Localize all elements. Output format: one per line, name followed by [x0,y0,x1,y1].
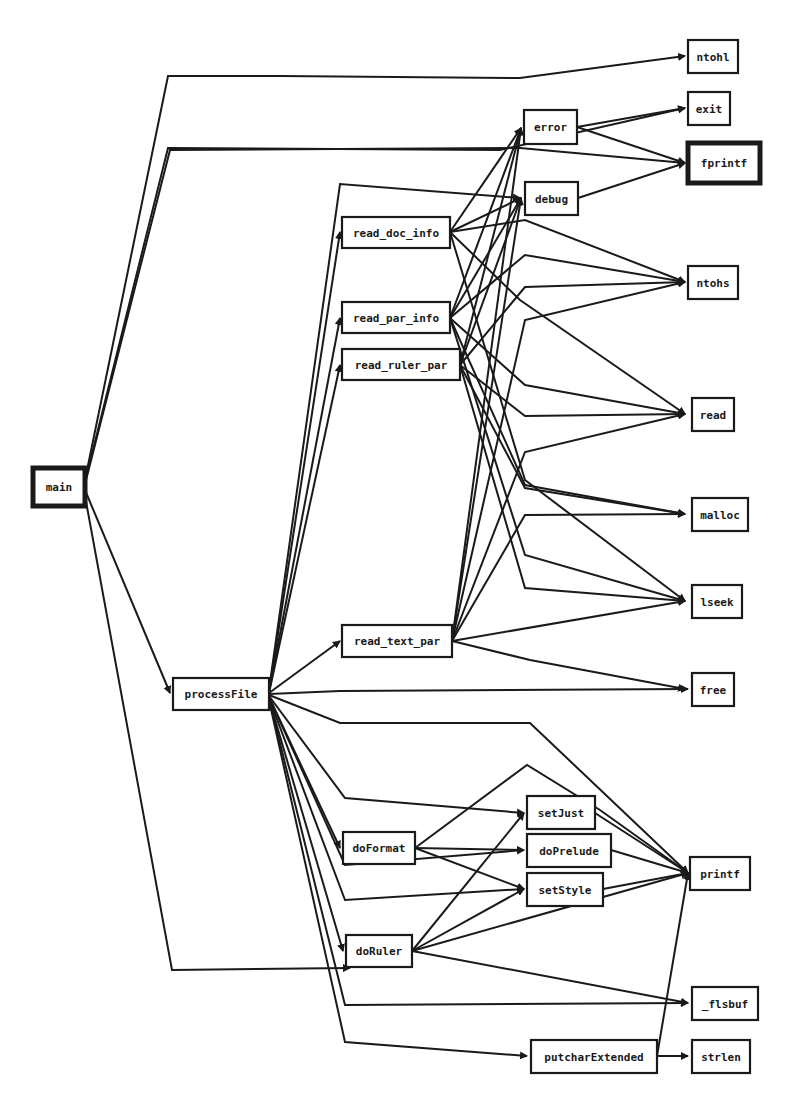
node-doFormat[interactable]: doFormat [343,832,415,864]
edge-read_text_par-to-free [452,641,685,689]
node-lseek[interactable]: lseek [692,585,742,618]
edge-read_text_par-to-ntohs [452,282,685,641]
node-label: _flsbuf [702,998,748,1011]
edge-setStyle-to-printf [603,873,688,889]
edge-processFile-to-putcharExtended [269,700,527,1056]
node-read_text_par[interactable]: read_text_par [342,625,452,657]
node-label: fprintf [701,157,747,170]
node-label: doRuler [356,945,403,958]
node-exit[interactable]: exit [688,92,730,125]
node-label: read_ruler_par [355,359,448,372]
node-label: lseek [700,596,733,609]
node-doRuler[interactable]: doRuler [346,935,412,967]
node-read[interactable]: read [692,398,734,431]
node-read_par_info[interactable]: read_par_info [342,302,450,333]
node-label: processFile [185,688,258,701]
node-setJust[interactable]: setJust [527,796,595,829]
node-printf[interactable]: printf [690,857,750,890]
node-label: read_doc_info [353,227,439,240]
node-label: read_par_info [353,312,439,325]
node-read_doc_info[interactable]: read_doc_info [342,217,450,248]
node-ntohs[interactable]: ntohs [688,266,738,299]
edge-processFile-to-debug [269,184,520,690]
edge-processFile-to-doRuler [269,699,343,951]
edge-doFormat-to-doPrelude [415,848,524,850]
node-label: main [46,481,73,494]
edge-main-to-ntohl [85,56,685,480]
node-label: strlen [701,1051,741,1064]
node-label: error [534,121,567,134]
edge-processFile-to-printf [269,695,688,873]
node-label: free [700,684,727,697]
edge-processFile-to-read_ruler_par [269,365,340,693]
node-label: read_text_par [354,635,440,648]
node-label: setStyle [539,884,592,897]
edge-processFile-to-read_text_par [269,641,340,693]
node-label: printf [700,868,740,881]
edge-error-to-exit [577,108,685,127]
node-malloc[interactable]: malloc [692,498,748,531]
node-label: malloc [700,509,740,522]
node-main[interactable]: main [33,468,85,506]
node-debug[interactable]: debug [525,182,578,215]
edge-processFile-to-_flsbuf [269,699,688,1005]
edge-main-to-exit [85,108,685,482]
node-error[interactable]: error [524,110,577,144]
edge-doRuler-to-setStyle [412,889,524,951]
node-label: setJust [538,807,584,820]
edge-doRuler-to-_flsbuf [412,951,688,1003]
edge-debug-to-fprintf [578,163,685,198]
edge-read_ruler_par-to-malloc [460,365,685,514]
node-label: exit [696,103,723,116]
edge-putcharExtended-to-printf [657,873,688,1056]
edge-main-to-processFile [85,490,170,693]
edge-main-to-doRuler [85,496,350,970]
node-doPrelude[interactable]: doPrelude [527,834,611,867]
node-label: ntohl [696,51,729,64]
edge-processFile-to-read_doc_info [269,232,340,692]
edge-processFile-to-free [269,689,688,694]
node-free[interactable]: free [692,673,734,706]
edge-read_par_info-to-lseek [450,318,685,601]
node-label: read [700,409,727,422]
node-label: debug [535,193,568,206]
node-ntohl[interactable]: ntohl [688,40,738,73]
node-fprintf[interactable]: fprintf [688,143,760,183]
node-strlen[interactable]: strlen [692,1040,750,1073]
node-processFile[interactable]: processFile [173,678,269,710]
nodes-layer: mainprocessFileread_doc_inforead_par_inf… [33,40,760,1073]
node-putcharExtended[interactable]: putcharExtended [531,1040,657,1073]
edge-read_text_par-to-lseek [452,601,685,641]
node-_flsbuf[interactable]: _flsbuf [692,987,758,1020]
node-label: doFormat [353,842,406,855]
edge-read_ruler_par-to-lseek [460,365,685,601]
call-graph-diagram: mainprocessFileread_doc_inforead_par_inf… [0,0,794,1111]
node-setStyle[interactable]: setStyle [527,873,603,906]
node-label: putcharExtended [544,1051,643,1064]
edge-read_doc_info-to-ntohs [450,220,685,282]
node-label: ntohs [696,277,729,290]
node-label: doPrelude [539,845,599,858]
edge-processFile-to-read_par_info [269,318,340,692]
node-read_ruler_par[interactable]: read_ruler_par [342,349,460,380]
